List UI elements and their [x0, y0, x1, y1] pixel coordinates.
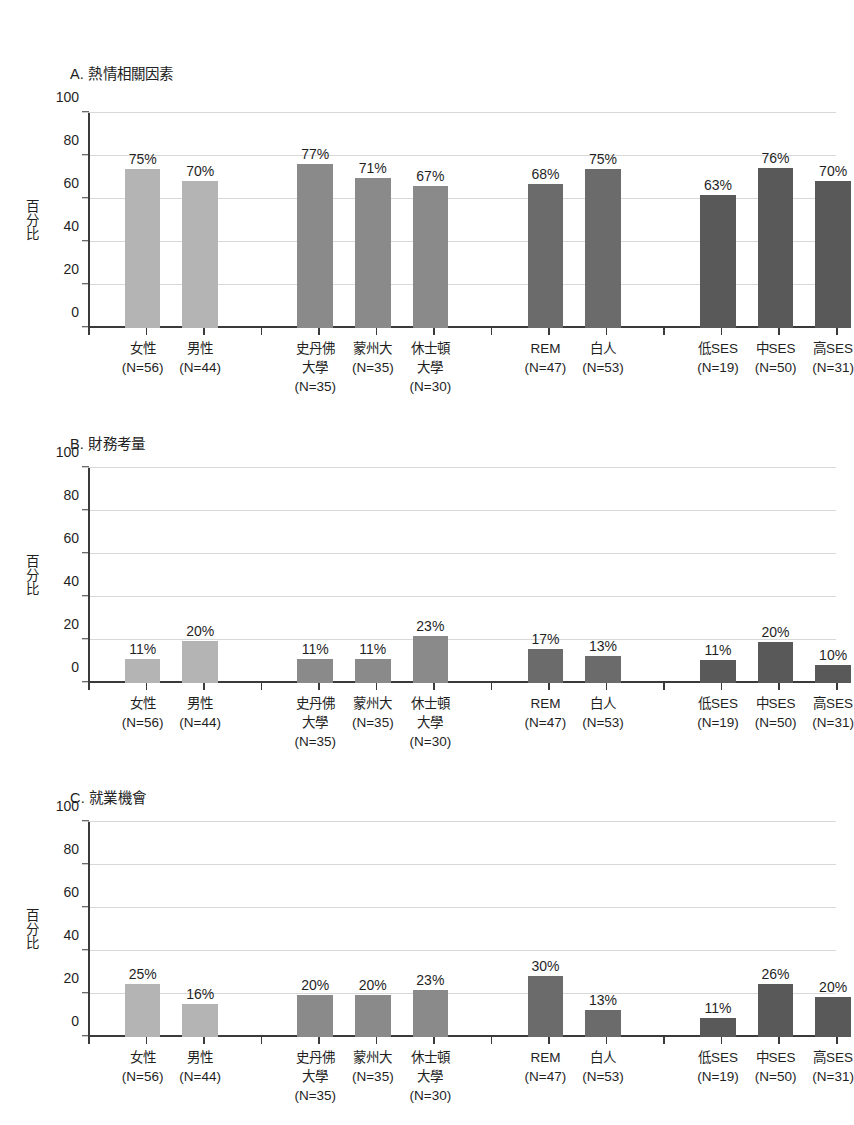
bar-b-4[interactable]: 11% [355, 468, 391, 683]
x-axis-tick-mark [146, 328, 148, 335]
bar-c-5[interactable]: 23% [413, 822, 449, 1037]
bar-rect[interactable] [758, 168, 794, 328]
bar-a-2[interactable]: 70% [182, 113, 218, 328]
category-label-line: 大學 [294, 1067, 336, 1086]
bar-c-6[interactable]: 30% [528, 822, 564, 1037]
bar-rect[interactable] [182, 1004, 218, 1037]
bar-rect[interactable] [528, 649, 564, 683]
bar-b-7[interactable]: 13% [585, 468, 621, 683]
bar-a-4[interactable]: 71% [355, 113, 391, 328]
bar-rect[interactable] [182, 181, 218, 328]
bar-value-label: 70% [186, 163, 214, 179]
bar-rect[interactable] [528, 976, 564, 1037]
bar-rect[interactable] [700, 195, 736, 328]
y-axis-tick-label: 100 [56, 89, 79, 105]
bar-c-9[interactable]: 26% [758, 822, 794, 1037]
bar-c-8[interactable]: 11% [700, 822, 736, 1037]
x-axis-tick-mark [778, 328, 780, 335]
bar-rect[interactable] [585, 656, 621, 683]
category-label-line: (N=35) [352, 1067, 394, 1086]
bar-c-7[interactable]: 13% [585, 822, 621, 1037]
bar-value-label: 67% [416, 168, 444, 184]
panel-a-plot: 020406080100百分比75%女性(N=56)70%男性(N=44)77%… [88, 113, 836, 328]
bar-rect[interactable] [758, 642, 794, 683]
y-axis-tick-label: 80 [63, 487, 79, 503]
bar-rect[interactable] [125, 984, 161, 1037]
bar-rect[interactable] [297, 164, 333, 328]
bar-rect[interactable] [585, 1010, 621, 1037]
bar-a-3[interactable]: 77% [297, 113, 333, 328]
y-axis-tick-label: 40 [63, 927, 79, 943]
bar-rect[interactable] [297, 659, 333, 683]
bar-c-2[interactable]: 16% [182, 822, 218, 1037]
bar-a-5[interactable]: 67% [413, 113, 449, 328]
bar-b-9[interactable]: 20% [758, 468, 794, 683]
category-label-line: 女性 [122, 1048, 164, 1067]
bar-b-8[interactable]: 11% [700, 468, 736, 683]
x-axis-category-label: 高SES(N=31) [812, 339, 854, 377]
bar-b-1[interactable]: 11% [125, 468, 161, 683]
bar-a-7[interactable]: 75% [585, 113, 621, 328]
x-axis-category-label: 低SES(N=19) [697, 339, 739, 377]
bar-a-6[interactable]: 68% [528, 113, 564, 328]
bar-rect[interactable] [700, 1018, 736, 1037]
bar-value-label: 11% [302, 641, 329, 657]
y-axis-line [88, 822, 90, 1037]
bar-rect[interactable] [758, 984, 794, 1037]
category-label-line: 白人 [582, 1048, 624, 1067]
x-axis-tick-mark [146, 683, 148, 690]
bar-rect[interactable] [413, 186, 449, 328]
bar-a-8[interactable]: 63% [700, 113, 736, 328]
bar-b-6[interactable]: 17% [528, 468, 564, 683]
bar-rect[interactable] [815, 181, 851, 328]
category-label-line: 中SES [755, 339, 797, 358]
bar-a-1[interactable]: 75% [125, 113, 161, 328]
bar-c-3[interactable]: 20% [297, 822, 333, 1037]
bar-value-label: 20% [301, 977, 329, 993]
bar-c-1[interactable]: 25% [125, 822, 161, 1037]
bar-value-label: 23% [416, 972, 444, 988]
bar-rect[interactable] [528, 184, 564, 328]
category-label-line: 休士頓 [410, 339, 452, 358]
x-axis-tick-mark [261, 683, 263, 690]
category-label-line: 高SES [812, 694, 854, 713]
bar-rect[interactable] [355, 659, 391, 683]
bar-rect[interactable] [700, 660, 736, 683]
bar-a-9[interactable]: 76% [758, 113, 794, 328]
bar-rect[interactable] [355, 995, 391, 1037]
category-label-line: 高SES [812, 339, 854, 358]
bar-value-label: 20% [762, 624, 790, 640]
bar-rect[interactable] [182, 641, 218, 683]
bar-rect[interactable] [815, 665, 851, 683]
bar-rect[interactable] [125, 659, 161, 683]
bar-b-2[interactable]: 20% [182, 468, 218, 683]
bar-rect[interactable] [355, 178, 391, 329]
x-axis-category-label: 史丹佛大學(N=35) [294, 339, 336, 396]
bar-a-10[interactable]: 70% [815, 113, 851, 328]
y-axis-title-char: 比 [24, 228, 40, 242]
x-axis-category-label: 高SES(N=31) [812, 694, 854, 732]
bar-b-10[interactable]: 10% [815, 468, 851, 683]
bar-rect[interactable] [413, 636, 449, 683]
category-label-line: 史丹佛 [294, 694, 336, 713]
x-axis-tick-mark [606, 683, 608, 690]
y-axis-title-char: 比 [24, 583, 40, 597]
bar-b-3[interactable]: 11% [297, 468, 333, 683]
category-label-line: (N=56) [122, 358, 164, 377]
x-axis-tick-mark [433, 328, 435, 335]
bar-rect[interactable] [297, 995, 333, 1037]
bar-rect[interactable] [585, 169, 621, 328]
bar-rect[interactable] [413, 990, 449, 1037]
bar-rect[interactable] [815, 997, 851, 1037]
x-axis-tick-mark [548, 683, 550, 690]
bar-c-10[interactable]: 20% [815, 822, 851, 1037]
x-axis-category-label: 中SES(N=50) [755, 339, 797, 377]
bar-rect[interactable] [125, 169, 161, 328]
y-axis-tick-label: 0 [71, 1013, 79, 1029]
x-axis-category-label: 男性(N=44) [179, 694, 221, 732]
bar-c-4[interactable]: 20% [355, 822, 391, 1037]
bar-b-5[interactable]: 23% [413, 468, 449, 683]
panel-b-title: B. 財務考量 [70, 432, 145, 453]
y-axis-tick-label: 0 [71, 304, 79, 320]
bar-value-label: 13% [589, 992, 617, 1008]
